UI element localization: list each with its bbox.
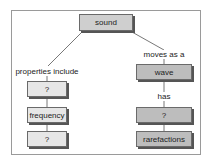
node-wave: wave — [136, 64, 192, 80]
node-label: frequency — [29, 111, 64, 120]
node-frequency: frequency — [27, 107, 67, 123]
node-left-unknown-2: ? — [27, 131, 67, 147]
node-sound: sound — [79, 14, 133, 31]
link-label-properties-include: properties include — [14, 67, 79, 76]
node-label: rarefactions — [143, 135, 185, 144]
node-label: wave — [155, 68, 174, 77]
link-label-moves-as-a: moves as a — [143, 50, 186, 59]
node-label: ? — [45, 135, 49, 144]
node-left-unknown-1: ? — [27, 81, 67, 97]
link-label-has: has — [157, 92, 172, 101]
node-label: ? — [162, 111, 166, 120]
node-rarefactions: rarefactions — [136, 131, 192, 147]
node-right-unknown: ? — [136, 107, 192, 123]
node-sound-label: sound — [95, 18, 117, 27]
node-label: ? — [45, 85, 49, 94]
